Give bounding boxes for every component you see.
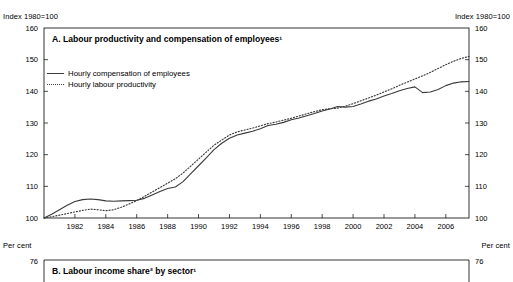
x-tick-label: 1984 <box>97 222 114 231</box>
x-tick-label: 1982 <box>67 222 84 231</box>
y-tick-label-left: 100 <box>25 214 38 223</box>
x-tick-label: 2000 <box>345 222 362 231</box>
x-tick-label: 2004 <box>407 222 424 231</box>
y-tick-label-left: 160 <box>25 24 38 33</box>
x-tick-label: 1988 <box>159 222 176 231</box>
panel-b-y-tick-label-right: 76 <box>475 257 483 266</box>
legend-item-compensation: Hourly compensation of employees <box>47 68 190 79</box>
figure-container: Index 1980=100 Index 1980=100 1001001101… <box>0 0 513 282</box>
x-tick-label: 1992 <box>221 222 238 231</box>
y-tick-label-right: 120 <box>475 150 488 159</box>
y-tick-label-right: 140 <box>475 87 488 96</box>
panel-b-y-tick-label-left: 76 <box>30 257 38 266</box>
x-tick-label: 2006 <box>437 222 454 231</box>
y-tick-label-left: 120 <box>25 150 38 159</box>
panel-a-legend: Hourly compensation of employees Hourly … <box>47 68 190 90</box>
legend-label-compensation: Hourly compensation of employees <box>68 68 190 79</box>
legend-item-productivity: Hourly labour productivity <box>47 79 190 90</box>
x-tick-label: 1998 <box>314 222 331 231</box>
y-tick-label-left: 130 <box>25 119 38 128</box>
legend-solid-line-icon <box>47 69 64 78</box>
y-tick-label-right: 130 <box>475 119 488 128</box>
y-tick-label-right: 150 <box>475 55 488 64</box>
x-tick-label: 1994 <box>252 222 269 231</box>
y-tick-label-right: 110 <box>475 182 487 191</box>
series-path-1 <box>44 82 469 218</box>
y-tick-label-right: 100 <box>475 214 488 223</box>
y-tick-label-left: 150 <box>25 55 38 64</box>
y-tick-label-left: 140 <box>25 87 38 96</box>
legend-dotted-line-icon <box>47 80 64 89</box>
panel-b-title: B. Labour income share² by sector¹ <box>52 266 196 276</box>
panel-a-title: A. Labour productivity and compensation … <box>52 34 282 44</box>
legend-label-productivity: Hourly labour productivity <box>68 79 156 90</box>
panel-a-frame <box>44 28 469 218</box>
y-tick-label-left: 110 <box>26 182 38 191</box>
x-tick-label: 1996 <box>283 222 300 231</box>
x-tick-label: 1990 <box>190 222 207 231</box>
x-tick-label: 2002 <box>376 222 393 231</box>
x-tick-label: 1986 <box>128 222 145 231</box>
y-tick-label-right: 160 <box>475 24 488 33</box>
